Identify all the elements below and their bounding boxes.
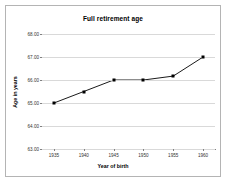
gridline bbox=[42, 34, 215, 35]
x-tick-label: 1945 bbox=[108, 153, 118, 158]
x-tick-mark bbox=[173, 149, 174, 151]
chart-title: Full retirement age bbox=[6, 15, 220, 22]
x-tick-mark bbox=[114, 149, 115, 151]
x-tick-mark bbox=[84, 149, 85, 151]
x-tick-label: 1950 bbox=[138, 153, 148, 158]
x-tick-mark bbox=[203, 149, 204, 151]
data-point-marker bbox=[82, 90, 85, 93]
y-tick-label: 63.00 bbox=[28, 147, 43, 152]
y-tick-label: 67.00 bbox=[28, 55, 43, 60]
series-line bbox=[42, 34, 215, 149]
gridline bbox=[42, 149, 215, 150]
gridline bbox=[42, 57, 215, 58]
data-point-marker bbox=[142, 79, 145, 82]
data-point-marker bbox=[202, 56, 205, 59]
y-tick-label: 66.00 bbox=[28, 78, 43, 83]
x-axis-title: Year of birth bbox=[6, 163, 220, 169]
y-tick-label: 64.00 bbox=[28, 124, 43, 129]
data-point-marker bbox=[112, 79, 115, 82]
y-tick-label: 68.00 bbox=[28, 32, 43, 37]
plot-area: 68.0067.0066.0065.0064.0063.001935194019… bbox=[42, 34, 215, 149]
chart-container: Full retirement age 68.0067.0066.0065.00… bbox=[5, 5, 221, 177]
gridline bbox=[42, 80, 215, 81]
x-tick-label: 1960 bbox=[198, 153, 208, 158]
x-tick-label: 1955 bbox=[168, 153, 178, 158]
x-tick-mark bbox=[54, 149, 55, 151]
gridline bbox=[42, 103, 215, 104]
x-tick-mark bbox=[143, 149, 144, 151]
y-axis-title: Age in years bbox=[12, 76, 18, 108]
x-tick-label: 1940 bbox=[79, 153, 89, 158]
gridline bbox=[42, 126, 215, 127]
data-point-marker bbox=[172, 75, 175, 78]
data-point-marker bbox=[52, 102, 55, 105]
y-tick-label: 65.00 bbox=[28, 101, 43, 106]
x-tick-label: 1935 bbox=[49, 153, 59, 158]
